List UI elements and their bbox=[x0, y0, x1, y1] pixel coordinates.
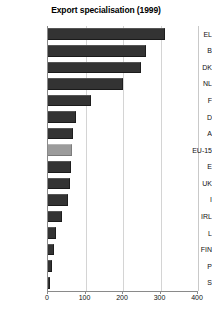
bar-i bbox=[48, 194, 68, 206]
chart-title: Export specialisation (1999) bbox=[0, 5, 212, 15]
x-tick-label-400: 400 bbox=[182, 294, 212, 301]
x-tick-label-300: 300 bbox=[145, 294, 175, 301]
category-label-el: EL bbox=[168, 31, 212, 38]
bar-eu-15 bbox=[48, 144, 72, 156]
bar-b bbox=[48, 45, 146, 57]
category-label-p: P bbox=[168, 263, 212, 270]
bar-d bbox=[48, 111, 76, 123]
category-label-e: E bbox=[168, 163, 212, 170]
category-label-nl: NL bbox=[168, 80, 212, 87]
bar-f bbox=[48, 95, 91, 107]
category-label-f: F bbox=[168, 97, 212, 104]
category-label-s: S bbox=[168, 279, 212, 286]
category-label-uk: UK bbox=[168, 180, 212, 187]
category-label-a: A bbox=[168, 130, 212, 137]
bar-s bbox=[48, 277, 50, 289]
bar-fin bbox=[48, 244, 54, 256]
bar-l bbox=[48, 227, 56, 239]
category-label-d: D bbox=[168, 114, 212, 121]
x-tick-label-100: 100 bbox=[70, 294, 100, 301]
bar-e bbox=[48, 161, 71, 173]
category-label-i: I bbox=[168, 196, 212, 203]
x-tick-label-0: 0 bbox=[32, 294, 62, 301]
category-label-fin: FIN bbox=[168, 246, 212, 253]
category-label-dk: DK bbox=[168, 64, 212, 71]
category-label-eu-15: EU-15 bbox=[168, 147, 212, 154]
category-label-irl: IRL bbox=[168, 213, 212, 220]
bar-dk bbox=[48, 62, 141, 74]
bar-a bbox=[48, 128, 73, 140]
category-label-b: B bbox=[168, 47, 212, 54]
x-tick-label-200: 200 bbox=[107, 294, 137, 301]
export-specialisation-chart: Export specialisation (1999) ELBDKNLFDAE… bbox=[0, 0, 212, 323]
bar-uk bbox=[48, 178, 70, 190]
bar-irl bbox=[48, 211, 62, 223]
bar-p bbox=[48, 260, 52, 272]
bar-el bbox=[48, 28, 165, 40]
category-label-l: L bbox=[168, 230, 212, 237]
bar-nl bbox=[48, 78, 123, 90]
